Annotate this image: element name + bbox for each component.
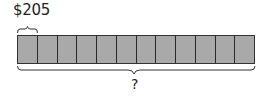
tape-segment — [117, 36, 137, 63]
tape-segment — [18, 36, 38, 63]
tape-segment — [156, 36, 176, 63]
tape-segment — [77, 36, 97, 63]
tape-segment — [235, 36, 254, 63]
tape-segment — [216, 36, 236, 63]
total-unknown-label: ? — [131, 76, 138, 92]
tape-segment — [38, 36, 58, 63]
tape-segment — [58, 36, 78, 63]
tape-segment — [176, 36, 196, 63]
tape-segment — [97, 36, 117, 63]
tape-segment — [137, 36, 157, 63]
tape-bar — [17, 35, 255, 64]
tape-segment — [196, 36, 216, 63]
